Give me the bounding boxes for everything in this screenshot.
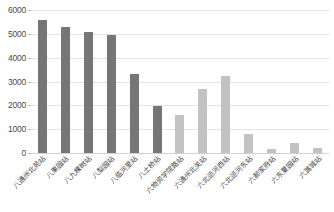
plot-area	[31, 10, 329, 153]
bar[interactable]	[61, 27, 70, 153]
y-axis-tick-label: 5000	[0, 30, 26, 39]
bar-slot	[100, 10, 123, 153]
y-axis-tickmark	[28, 34, 31, 35]
y-axis-tick-label: 3000	[0, 77, 26, 86]
y-axis-tickmark	[28, 153, 31, 154]
x-axis-tick-label: 八通州北苑站	[13, 156, 48, 191]
bar-slot	[237, 10, 260, 153]
bar-slot	[306, 10, 329, 153]
bar-slot	[54, 10, 77, 153]
bar-slot	[146, 10, 169, 153]
bar[interactable]	[198, 89, 207, 153]
x-axis-label-slot: 八通州北苑站	[31, 153, 54, 212]
y-axis-tick-label: 1000	[0, 125, 26, 134]
bar-group	[31, 10, 329, 153]
y-axis-tickmark	[28, 82, 31, 83]
x-axis-labels: 八通州北苑站八果园站八九棵树站八梨园站八临河里站八土桥站六物资学院路站六通州北关…	[31, 153, 329, 212]
x-axis-label-slot: 八临河里站	[123, 153, 146, 212]
bar[interactable]	[290, 143, 299, 153]
bar-chart: 6000500040003000200010000 八通州北苑站八果园站八九棵树…	[0, 0, 334, 212]
y-axis: 6000500040003000200010000	[0, 10, 28, 153]
bar[interactable]	[38, 20, 47, 153]
y-axis-tick-label: 0	[0, 149, 26, 158]
bar-slot	[191, 10, 214, 153]
bar[interactable]	[153, 106, 162, 153]
bar-slot	[260, 10, 283, 153]
bar-slot	[77, 10, 100, 153]
x-axis-label-slot: 六东夏园站	[283, 153, 306, 212]
y-axis-tick-label: 4000	[0, 53, 26, 62]
y-axis-tick-label: 2000	[0, 101, 26, 110]
bar-slot	[123, 10, 146, 153]
x-axis-label-slot: 八九棵树站	[77, 153, 100, 212]
bar[interactable]	[244, 134, 253, 153]
bar-slot	[214, 10, 237, 153]
bar[interactable]	[130, 74, 139, 153]
bar-slot	[169, 10, 192, 153]
bar-slot	[31, 10, 54, 153]
bar[interactable]	[175, 115, 184, 153]
y-axis-tickmark	[28, 58, 31, 59]
y-axis-tickmark	[28, 105, 31, 106]
y-axis-tick-label: 6000	[0, 6, 26, 15]
y-axis-tickmark	[28, 10, 31, 11]
bar[interactable]	[107, 35, 116, 153]
bar[interactable]	[84, 32, 93, 153]
y-axis-tickmark	[28, 129, 31, 130]
bar[interactable]	[221, 76, 230, 153]
x-axis-label-slot: 六潞城站	[306, 153, 329, 212]
bar-slot	[283, 10, 306, 153]
